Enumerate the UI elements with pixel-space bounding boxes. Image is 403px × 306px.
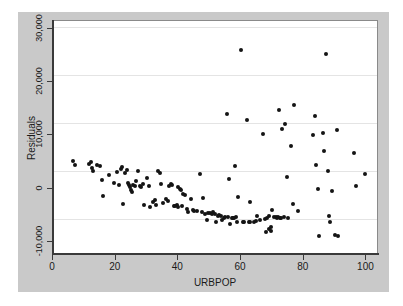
- data-point: [121, 202, 125, 206]
- x-axis-line: [52, 253, 379, 255]
- data-point: [117, 183, 121, 187]
- data-point: [89, 160, 93, 164]
- data-point: [282, 215, 286, 219]
- data-point: [242, 220, 246, 224]
- data-point: [141, 182, 145, 186]
- y-tick-label: 0: [34, 185, 44, 190]
- data-point: [336, 234, 340, 238]
- data-point: [228, 222, 232, 226]
- data-point: [283, 122, 287, 126]
- data-point: [354, 184, 358, 188]
- data-point: [120, 165, 124, 169]
- data-point: [147, 184, 151, 188]
- y-tick: [47, 188, 52, 189]
- data-point: [107, 173, 111, 177]
- data-point: [205, 218, 209, 222]
- y-tick: [47, 28, 52, 29]
- data-point: [115, 170, 119, 174]
- data-point: [179, 188, 183, 192]
- data-point: [328, 220, 332, 224]
- x-tick: [240, 255, 241, 260]
- data-point: [236, 195, 240, 199]
- data-point: [233, 164, 237, 168]
- data-point: [73, 163, 77, 167]
- plot-panel: [52, 20, 378, 254]
- data-point: [311, 133, 315, 137]
- data-point: [255, 214, 259, 218]
- data-point: [166, 199, 170, 203]
- data-point: [321, 131, 325, 135]
- data-point: [316, 187, 320, 191]
- data-point: [239, 48, 243, 52]
- data-point: [183, 193, 187, 197]
- data-point: [254, 219, 258, 223]
- data-point: [317, 234, 321, 238]
- data-point: [269, 229, 273, 233]
- data-point: [186, 210, 190, 214]
- data-point: [148, 205, 152, 209]
- data-point: [125, 168, 129, 172]
- data-point: [112, 181, 116, 185]
- data-point: [159, 182, 163, 186]
- x-tick: [177, 255, 178, 260]
- data-point: [292, 103, 296, 107]
- y-axis-line: [52, 20, 54, 254]
- data-point: [91, 169, 95, 173]
- data-point: [154, 203, 158, 207]
- data-point: [180, 204, 184, 208]
- x-tick: [365, 255, 366, 260]
- data-point: [201, 196, 205, 200]
- gridline-10000: [53, 123, 377, 124]
- data-point: [322, 149, 326, 153]
- data-point: [248, 200, 252, 204]
- data-point: [313, 114, 317, 118]
- data-point: [101, 194, 105, 198]
- data-point: [352, 151, 356, 155]
- x-tick: [303, 255, 304, 260]
- data-point: [326, 169, 330, 173]
- data-point: [245, 118, 249, 122]
- data-point: [324, 52, 328, 56]
- data-point: [363, 172, 367, 176]
- data-point: [158, 171, 162, 175]
- data-point: [142, 203, 146, 207]
- x-tick-label: 100: [345, 261, 385, 273]
- data-point: [98, 164, 102, 168]
- x-tick-label: 80: [283, 261, 323, 273]
- data-point: [227, 177, 231, 181]
- chart-page: 020406080100 -10,000010,00020,00030,000 …: [0, 0, 403, 306]
- data-point: [330, 189, 334, 193]
- data-point: [289, 144, 293, 148]
- data-point: [286, 216, 290, 220]
- x-tick: [52, 255, 53, 260]
- data-point: [291, 202, 295, 206]
- y-axis-label: Residuals: [26, 116, 37, 160]
- data-point: [261, 132, 265, 136]
- x-tick-label: 40: [157, 261, 197, 273]
- data-point: [277, 108, 281, 112]
- data-point: [195, 209, 199, 213]
- data-point: [335, 128, 339, 132]
- data-point: [225, 112, 229, 116]
- data-point: [296, 209, 300, 213]
- x-tick: [115, 255, 116, 260]
- x-tick-label: 20: [95, 261, 135, 273]
- x-tick-label: 60: [220, 261, 260, 273]
- data-point: [153, 198, 157, 202]
- y-tick: [47, 81, 52, 82]
- data-point: [280, 127, 284, 131]
- y-tick-label: 20,000: [34, 67, 44, 95]
- data-point: [327, 214, 331, 218]
- data-point: [161, 201, 165, 205]
- gridline-30000: [53, 27, 377, 28]
- y-tick: [47, 241, 52, 242]
- data-point: [100, 178, 104, 182]
- data-point: [170, 183, 174, 187]
- data-point: [134, 179, 138, 183]
- y-tick-label: -10,000: [34, 225, 44, 256]
- data-point: [270, 208, 274, 212]
- data-point: [133, 184, 137, 188]
- data-point: [136, 169, 140, 173]
- x-tick-label: 0: [32, 261, 72, 273]
- data-point: [285, 175, 289, 179]
